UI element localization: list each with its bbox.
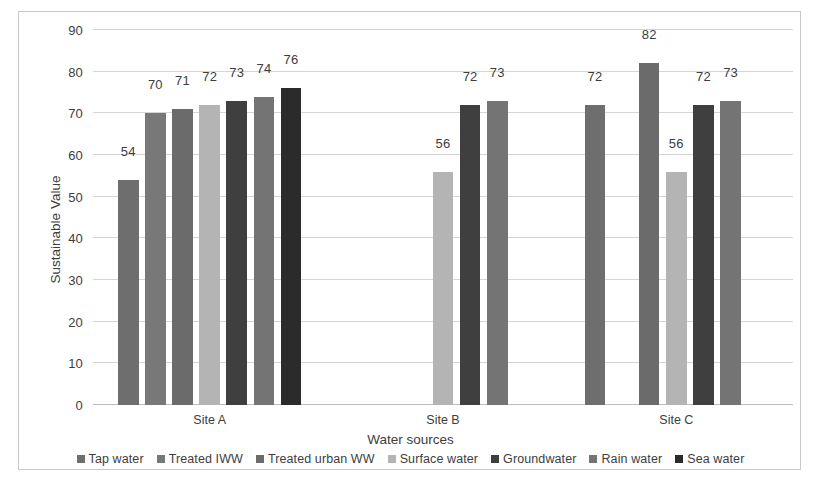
bar[interactable] [254,97,275,405]
bar-slot: 54 [118,30,139,405]
bar-slot: 73 [720,30,741,405]
legend-swatch-icon [388,455,396,463]
legend-swatch-icon [256,455,264,463]
y-axis-tick-labels: 0102030405060708090 [43,30,89,405]
bar-value-label: 56 [436,136,451,154]
bar-value-label: 72 [696,69,711,87]
bar-slot: 73 [226,30,247,405]
bar-slot [406,30,427,405]
legend-swatch-icon [157,455,165,463]
bar[interactable] [172,109,193,405]
bar-slot: 70 [145,30,166,405]
bar[interactable] [145,113,166,405]
bar[interactable] [639,63,660,405]
bar-slot: 76 [281,30,302,405]
bar-value-label: 72 [587,69,602,87]
legend-item[interactable]: Tap water [77,452,144,466]
legend-swatch-icon [77,455,85,463]
bar-value-label: 73 [490,65,505,83]
bar-value-label: 73 [723,65,738,83]
bar-slot [378,30,399,405]
legend-label: Tap water [89,452,144,466]
bar-value-label: 76 [284,52,299,70]
bar[interactable] [281,88,302,405]
bar[interactable] [693,105,714,405]
bar-value-label: 70 [148,77,163,95]
bar[interactable] [720,101,741,405]
legend-label: Treated IWW [169,452,243,466]
legend-swatch-icon [675,455,683,463]
bar-group: 7282567273 [560,30,793,405]
bar-value-label: 72 [202,69,217,87]
legend-item[interactable]: Rain water [589,452,662,466]
legend-label: Rain water [601,452,662,466]
bar-slot: 73 [487,30,508,405]
bar-group: 54707172737476 [93,30,326,405]
bar-slot: 72 [199,30,220,405]
category-label-site-b: Site B [426,413,459,427]
y-tick-label-10: 10 [68,356,83,371]
bar-slot: 72 [693,30,714,405]
legend-label: Groundwater [503,452,576,466]
bar-slot: 72 [460,30,481,405]
bar-slot: 56 [666,30,687,405]
bar-value-label: 72 [463,69,478,87]
y-tick-label-40: 40 [68,231,83,246]
bar-slot [612,30,633,405]
bar[interactable] [226,101,247,405]
bar[interactable] [433,172,454,405]
bar-slot [351,30,372,405]
legend-label: Surface water [400,452,478,466]
y-tick-label-80: 80 [68,64,83,79]
bar[interactable] [666,172,687,405]
y-tick-label-50: 50 [68,189,83,204]
legend-label: Treated urban WW [268,452,375,466]
x-axis-title: Water sources [19,432,802,447]
legend-swatch-icon [491,455,499,463]
legend-item[interactable]: Sea water [675,452,744,466]
bar[interactable] [199,105,220,405]
bar-value-label: 82 [642,27,657,45]
plot-area: 547071727374765672737282567273 [93,30,793,405]
chart-frame: Sustainable Value 0102030405060708090 54… [18,11,801,470]
bar-slot: 72 [585,30,606,405]
bar-slot: 56 [433,30,454,405]
legend-swatch-icon [589,455,597,463]
legend-label: Sea water [687,452,744,466]
bar-value-label: 74 [256,61,271,79]
y-tick-label-20: 20 [68,314,83,329]
bar[interactable] [585,105,606,405]
chart-legend: Tap waterTreated IWWTreated urban WWSurf… [19,452,802,466]
legend-item[interactable]: Treated urban WW [256,452,375,466]
y-tick-label-30: 30 [68,273,83,288]
bar-value-label: 56 [669,136,684,154]
bar-value-label: 71 [175,73,190,91]
y-tick-label-70: 70 [68,106,83,121]
y-axis-title-container: Sustainable Value [25,72,45,372]
category-label-site-c: Site C [659,413,693,427]
bar-slot: 71 [172,30,193,405]
y-tick-label-90: 90 [68,23,83,38]
bar-value-label: 73 [229,65,244,83]
bar-value-label: 54 [121,144,136,162]
bar[interactable] [118,180,139,405]
y-tick-label-60: 60 [68,148,83,163]
legend-item[interactable]: Surface water [388,452,478,466]
bar-slot: 74 [254,30,275,405]
bar-slot: 82 [639,30,660,405]
y-tick-label-0: 0 [76,398,83,413]
bar-group: 567273 [326,30,559,405]
category-label-site-a: Site A [193,413,226,427]
legend-item[interactable]: Treated IWW [157,452,243,466]
bar-slot [514,30,535,405]
bar-slot [747,30,768,405]
bar[interactable] [487,101,508,405]
legend-item[interactable]: Groundwater [491,452,576,466]
bar[interactable] [460,105,481,405]
